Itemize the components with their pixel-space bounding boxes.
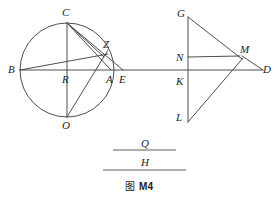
segment-m-l <box>188 58 243 122</box>
point-label-l: L <box>176 112 182 123</box>
segment-g-m <box>188 17 242 59</box>
point-label-e: E <box>119 74 126 85</box>
point-label-a: A <box>106 74 113 85</box>
point-label-b: B <box>8 64 15 75</box>
geometry-figure-m4: B C Z R A E O G M N K D L Q H 图M4 <box>0 0 278 198</box>
point-label-k: K <box>176 76 183 87</box>
segment-m-d <box>242 56 263 70</box>
fraction-denominator-h: H <box>141 157 149 168</box>
caption-cjk-label: 图 <box>125 181 135 192</box>
point-label-r: R <box>62 74 69 85</box>
left-figure-group <box>20 23 263 117</box>
figure-caption: 图M4 <box>0 178 278 193</box>
point-label-n: N <box>176 52 183 63</box>
caption-figure-id: M4 <box>139 181 153 192</box>
point-label-c: C <box>62 7 69 18</box>
segment-n-m <box>188 56 240 57</box>
geometry-canvas <box>0 0 278 198</box>
point-label-o: O <box>62 120 70 131</box>
right-figure-group <box>188 17 263 122</box>
point-label-g: G <box>177 8 185 19</box>
fraction-numerator-q: Q <box>141 138 149 149</box>
segment-b-z <box>20 54 108 70</box>
segment-c-e <box>67 23 123 70</box>
point-label-d: D <box>263 64 271 75</box>
point-label-z: Z <box>103 39 109 50</box>
point-label-m: M <box>240 44 249 55</box>
